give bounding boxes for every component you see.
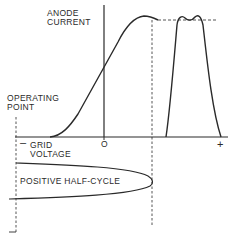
zero-label: O xyxy=(101,140,108,149)
negative-sign: – xyxy=(20,137,26,148)
positive-half-cycle-label: POSITIVE HALF-CYCLE xyxy=(20,177,120,186)
output-pulse xyxy=(166,16,221,137)
anode-current-label: ANODE CURRENT xyxy=(47,9,91,27)
grid-voltage-label: GRID VOLTAGE xyxy=(30,141,71,159)
positive-sign: + xyxy=(217,139,224,150)
operating-point-label: OPERATING POINT xyxy=(7,94,59,112)
operating-point-label-line2: POINT xyxy=(7,103,59,112)
transfer-characteristic-diagram xyxy=(0,0,240,237)
grid-voltage-label-line2: VOLTAGE xyxy=(30,150,71,159)
anode-current-label-line2: CURRENT xyxy=(47,18,91,27)
